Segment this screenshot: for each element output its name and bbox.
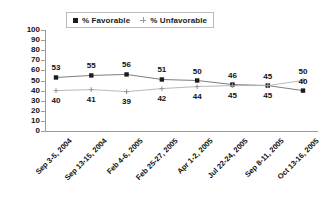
data-point-label: 45 xyxy=(263,73,272,81)
y-axis-tick-label: 30 xyxy=(31,97,40,105)
legend-label-unfavorable: % Unfavorable xyxy=(150,16,207,25)
y-axis-tick-label: 20 xyxy=(31,107,40,115)
y-axis-tick-mark xyxy=(41,101,45,102)
data-point-marker xyxy=(301,88,305,92)
y-axis-tick-mark xyxy=(41,30,45,31)
y-axis-tick-mark xyxy=(41,131,45,132)
data-point-marker xyxy=(89,73,93,77)
data-point-label: 40 xyxy=(52,97,61,105)
y-axis-tick-label: 60 xyxy=(31,66,40,74)
data-point-label: 53 xyxy=(52,64,61,72)
y-axis-tick-mark xyxy=(41,40,45,41)
data-point-marker xyxy=(159,86,164,91)
data-point-marker xyxy=(195,78,199,82)
data-point-label: 44 xyxy=(193,93,202,101)
data-point-label: 39 xyxy=(122,98,131,106)
data-point-label: 50 xyxy=(193,68,202,76)
y-axis-tick-label: 40 xyxy=(31,87,40,95)
cross-marker-icon xyxy=(140,17,146,23)
legend-item-unfavorable: % Unfavorable xyxy=(140,16,207,25)
y-axis-tick-labels: 1009080706050403020100 xyxy=(12,26,40,134)
data-point-label: 50 xyxy=(299,68,308,76)
plot-area xyxy=(45,30,318,131)
data-point-label: 41 xyxy=(87,96,96,104)
data-point-marker xyxy=(54,75,58,79)
y-axis-tick-label: 10 xyxy=(31,117,40,125)
y-axis-tick-label: 90 xyxy=(31,36,40,44)
data-point-marker xyxy=(54,88,59,93)
x-axis-tick-labels: Sep 3-5, 2004Sep 13-15, 2004Feb 4-6, 200… xyxy=(0,131,324,206)
y-axis-tick-mark xyxy=(41,121,45,122)
data-point-marker xyxy=(124,89,129,94)
data-point-label: 51 xyxy=(157,66,166,74)
data-point-label: 40 xyxy=(299,78,308,86)
data-point-label: 55 xyxy=(87,62,96,70)
y-axis-tick-mark xyxy=(41,50,45,51)
data-point-label: 45 xyxy=(228,92,237,100)
y-axis-tick-mark xyxy=(41,70,45,71)
data-point-marker xyxy=(160,77,164,81)
y-axis-tick-label: 70 xyxy=(31,56,40,64)
data-point-label: 56 xyxy=(122,61,131,69)
line-chart: % Favorable % Unfavorable 10090807060504… xyxy=(0,0,324,206)
legend-label-favorable: % Favorable xyxy=(82,16,130,25)
data-point-label: 46 xyxy=(228,72,237,80)
y-axis-tick-label: 50 xyxy=(31,77,40,85)
chart-legend: % Favorable % Unfavorable xyxy=(66,12,214,28)
series-lines xyxy=(45,30,318,131)
legend-item-favorable: % Favorable xyxy=(73,16,130,25)
y-axis-tick-mark xyxy=(41,111,45,112)
y-axis-tick-label: 80 xyxy=(31,46,40,54)
data-point-label: 42 xyxy=(157,95,166,103)
data-point-marker xyxy=(124,72,128,76)
y-axis-tick-mark xyxy=(41,60,45,61)
y-axis-tick-mark xyxy=(41,91,45,92)
data-point-marker xyxy=(89,87,94,92)
data-point-label: 45 xyxy=(263,92,272,100)
y-axis-tick-label: 100 xyxy=(27,26,40,34)
square-marker-icon xyxy=(73,18,78,23)
data-point-marker xyxy=(195,84,200,89)
y-axis-tick-mark xyxy=(41,81,45,82)
